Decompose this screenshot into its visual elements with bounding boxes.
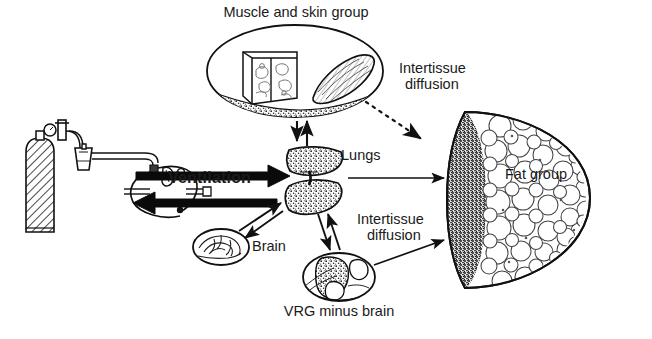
gas-cylinder-icon — [26, 131, 54, 232]
label-intertissue-diffusion-top-line1: Intertissue — [399, 60, 466, 76]
arrow-lungs-brain — [239, 203, 283, 238]
label-fat-group: Fat group — [505, 166, 567, 182]
label-intertissue-diffusion-top: Intertissue diffusion — [399, 60, 466, 92]
label-muscle-and-skin-group: Muscle and skin group — [196, 4, 396, 20]
label-intertissue-diffusion-bottom: Intertissue diffusion — [357, 211, 424, 243]
vrg-minus-brain-compartment — [303, 253, 375, 301]
arrow-lungs-vrg — [318, 214, 340, 250]
label-intertissue-diffusion-bottom-line1: Intertissue — [357, 211, 424, 227]
label-lungs: Lungs — [341, 147, 381, 163]
diagram-canvas: Muscle and skin group Intertissue diffus… — [0, 0, 652, 339]
lungs-compartment — [285, 147, 342, 214]
label-brain: Brain — [252, 238, 286, 254]
label-ventilation: Ventilation — [168, 169, 251, 187]
vaporizer-icon — [75, 144, 92, 170]
arrow-intertissue-diffusion-top — [366, 102, 420, 138]
skin-cube — [243, 52, 297, 104]
arrow-intertissue-diffusion-bottom — [374, 240, 444, 265]
regulator-valve-icon — [55, 120, 83, 148]
muscle-skin-group-compartment — [207, 25, 384, 120]
label-intertissue-diffusion-top-line2: diffusion — [405, 76, 466, 92]
fat-group-compartment — [447, 110, 595, 291]
label-intertissue-diffusion-bottom-line2: diffusion — [367, 227, 424, 243]
label-vrg-minus-brain: VRG minus brain — [264, 303, 414, 319]
tubing-icon — [92, 153, 158, 166]
brain-compartment — [193, 229, 249, 265]
arrow-lungs-muscle-skin — [297, 121, 307, 146]
pressure-gauge-icon — [44, 124, 56, 136]
